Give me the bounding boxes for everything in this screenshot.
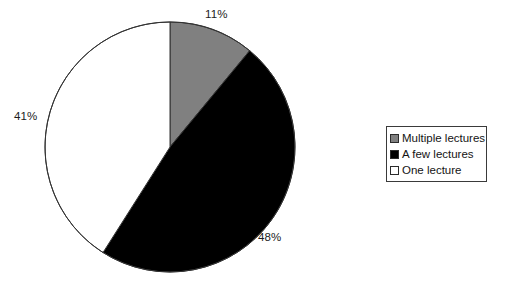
slice-label-a-few-lectures: 48% bbox=[258, 231, 281, 243]
slice-label-multiple-lectures: 11% bbox=[205, 8, 227, 20]
legend-item-a-few-lectures[interactable]: A few lectures bbox=[390, 146, 483, 162]
legend-label-a-few-lectures: A few lectures bbox=[402, 148, 474, 161]
legend-swatch-a-few-lectures-icon bbox=[390, 150, 399, 159]
legend-item-one-lecture[interactable]: One lecture bbox=[390, 162, 483, 178]
chart-legend: Multiple lectures A few lectures One lec… bbox=[386, 126, 487, 182]
legend-label-multiple-lectures: Multiple lectures bbox=[402, 132, 485, 145]
legend-label-one-lecture: One lecture bbox=[402, 164, 461, 177]
legend-item-multiple-lectures[interactable]: Multiple lectures bbox=[390, 130, 483, 146]
legend-swatch-multiple-lectures-icon bbox=[390, 134, 399, 143]
slice-label-one-lecture: 41% bbox=[14, 110, 37, 122]
pie-chart-figure: 11% 41% 48% Multiple lectures A few lect… bbox=[0, 0, 507, 298]
legend-swatch-one-lecture-icon bbox=[390, 166, 399, 175]
